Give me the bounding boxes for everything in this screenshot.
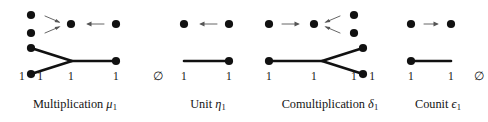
caption-symbol: μ xyxy=(106,97,112,111)
caption-subscript: 1 xyxy=(374,102,379,112)
caption-text: Comultiplication xyxy=(282,97,365,111)
object-label: 1 xyxy=(226,69,232,83)
top-dot xyxy=(225,20,233,28)
object-label-row: 1 1 1 + 1 xyxy=(260,69,400,87)
panel-unit: ∅ 1 1 Unit η1 xyxy=(150,0,260,122)
top-dot xyxy=(67,20,75,28)
top-dot xyxy=(27,11,35,19)
caption-subscript: 1 xyxy=(456,102,461,112)
top-dot xyxy=(27,29,35,37)
counit-graph xyxy=(407,57,451,65)
object-label: 1 + 1 xyxy=(19,69,43,83)
caption-subscript: 1 xyxy=(221,102,226,112)
top-dot xyxy=(447,20,455,28)
object-label-row: 1 1 ∅ xyxy=(400,69,488,87)
graph-vertex xyxy=(265,57,273,65)
top-dot xyxy=(112,20,120,28)
panel-counit: 1 1 ∅ Counit ϵ1 xyxy=(400,0,488,122)
top-dot xyxy=(350,11,358,19)
top-dot xyxy=(350,29,358,37)
top-dot xyxy=(407,20,415,28)
frobenius-structure-maps-figure: 1 + 1 1 1 Multiplication μ1 ∅ 1 1 xyxy=(0,0,488,122)
panel-caption: Comultiplication δ1 xyxy=(260,96,400,115)
graph-vertex xyxy=(359,44,367,52)
caption-text: Unit xyxy=(190,97,212,111)
object-label: 1 xyxy=(408,69,414,83)
caption-text: Multiplication xyxy=(33,97,103,111)
object-label: 1 xyxy=(181,69,187,83)
caption-subscript: 1 xyxy=(113,102,118,112)
caption-symbol: δ xyxy=(368,97,374,111)
graph-vertex xyxy=(407,57,415,65)
object-label: 1 xyxy=(113,69,119,83)
graph-vertex xyxy=(27,44,35,52)
left-arrow-pair-icon xyxy=(324,16,340,33)
panel-comultiplication: 1 1 1 + 1 Comultiplication δ1 xyxy=(260,0,400,122)
object-label-row: 1 + 1 1 1 xyxy=(0,69,150,87)
object-label-row: ∅ 1 1 xyxy=(150,69,260,87)
caption-text: Counit xyxy=(415,97,448,111)
object-label: 1 xyxy=(266,69,272,83)
panel-caption: Unit η1 xyxy=(158,96,258,115)
panel-caption: Multiplication μ1 xyxy=(0,96,150,115)
right-arrow-pair-icon xyxy=(45,16,61,33)
object-label: ∅ xyxy=(474,69,484,83)
object-label: 1 + 1 xyxy=(351,69,375,83)
right-arrow-icon xyxy=(424,22,439,27)
unit-graph xyxy=(184,57,233,65)
panel-multiplication: 1 + 1 1 1 Multiplication μ1 xyxy=(0,0,150,122)
panel-caption: Counit ϵ1 xyxy=(394,96,482,115)
top-dot xyxy=(180,20,188,28)
left-arrow-icon xyxy=(199,22,217,27)
object-label: 1 xyxy=(68,69,74,83)
graph-vertex xyxy=(112,57,120,65)
top-dot xyxy=(265,20,273,28)
right-arrow-icon xyxy=(282,22,300,27)
object-label: ∅ xyxy=(153,69,163,83)
object-label: 1 xyxy=(448,69,454,83)
top-dot xyxy=(310,20,318,28)
object-label: 1 xyxy=(311,69,317,83)
left-arrow-icon xyxy=(86,22,104,27)
graph-vertex xyxy=(225,57,233,65)
